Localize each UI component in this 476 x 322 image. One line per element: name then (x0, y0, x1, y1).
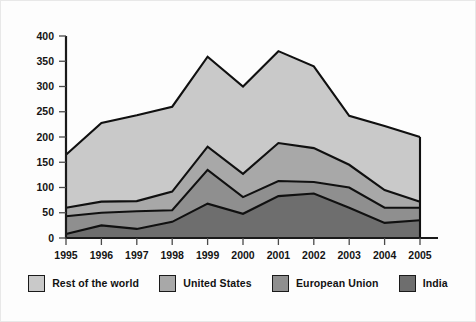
x-tick-label: 2001 (267, 249, 291, 261)
y-tick-label: 0 (48, 232, 54, 244)
x-tick-label: 1997 (125, 249, 149, 261)
x-tick-label: 1996 (90, 249, 114, 261)
x-tick-label: 1999 (196, 249, 220, 261)
legend-swatch-icon (272, 275, 289, 292)
legend-item-european-union[interactable]: European Union (272, 275, 378, 292)
legend-swatch-icon (28, 275, 45, 292)
area-chart-figure: 050100150200250300350400 199519961997199… (0, 0, 476, 322)
stacked-areas-group (66, 51, 420, 238)
legend-item-label: United States (183, 277, 251, 289)
y-tick-label: 200 (36, 131, 54, 143)
x-tick-label: 2002 (302, 249, 326, 261)
x-tick-label: 1995 (54, 249, 78, 261)
legend-swatch-icon (159, 275, 176, 292)
legend-item-united-states[interactable]: United States (159, 275, 251, 292)
legend-item-label: Rest of the world (52, 277, 139, 289)
y-tick-label: 150 (36, 156, 54, 168)
y-tick-label: 250 (36, 105, 54, 117)
chart-legend: Rest of the worldUnited StatesEuropean U… (18, 268, 458, 298)
x-tick-label: 2003 (338, 249, 362, 261)
y-tick-label: 100 (36, 181, 54, 193)
x-tick-label: 2005 (408, 249, 432, 261)
y-tick-label: 300 (36, 80, 54, 92)
x-tick-label: 2000 (231, 249, 255, 261)
y-tick-label: 350 (36, 55, 54, 67)
legend-item-label: India (423, 277, 448, 289)
legend-item-rest-of-the-world[interactable]: Rest of the world (28, 275, 139, 292)
y-tick-label: 400 (36, 30, 54, 42)
y-tick-label: 50 (42, 206, 54, 218)
y-axis-ticks-group: 050100150200250300350400 (36, 30, 66, 244)
x-axis-ticks-group: 1995199619971998199920002001200220032004… (54, 238, 432, 261)
legend-item-label: European Union (296, 277, 378, 289)
legend-item-india[interactable]: India (399, 275, 448, 292)
legend-swatch-icon (399, 275, 416, 292)
x-tick-label: 2004 (373, 249, 397, 261)
x-tick-label: 1998 (161, 249, 185, 261)
